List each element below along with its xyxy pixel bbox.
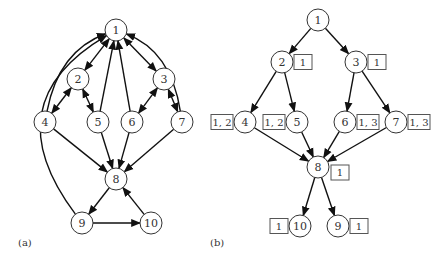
b-edge-2-5 bbox=[285, 73, 295, 112]
a-edge-1-2 bbox=[85, 39, 110, 71]
svg-text:1: 1 bbox=[113, 24, 120, 37]
b-edge-2-4 bbox=[251, 71, 276, 112]
a-edge-2-5 bbox=[83, 89, 94, 112]
b-node-6: 6 bbox=[334, 111, 356, 133]
a-edge-7-8 bbox=[124, 129, 173, 172]
b-node-7: 7 bbox=[385, 111, 407, 133]
graph-figure: 12345678910 1213141, 251, 261, 371, 3811… bbox=[0, 0, 445, 261]
a-edge-8-9 bbox=[89, 188, 110, 215]
a-edge-6-8 bbox=[119, 133, 129, 169]
a-node-2: 2 bbox=[67, 68, 89, 90]
b-node-3-label-box: 1 bbox=[368, 55, 386, 70]
a-node-3: 3 bbox=[153, 68, 175, 90]
svg-text:1: 1 bbox=[356, 221, 362, 232]
svg-text:10: 10 bbox=[144, 217, 158, 230]
b-node-2-label-box: 1 bbox=[294, 55, 312, 70]
b-node-3: 3 bbox=[345, 51, 367, 73]
a-edge-4-8 bbox=[54, 129, 108, 172]
b-edge-1-3 bbox=[325, 28, 348, 54]
a-edge-10-8 bbox=[123, 188, 144, 215]
b-node-9: 9 bbox=[327, 215, 349, 237]
svg-text:1, 3: 1, 3 bbox=[409, 117, 428, 128]
svg-text:5: 5 bbox=[95, 116, 102, 129]
svg-text:1: 1 bbox=[374, 57, 380, 68]
b-node-1: 1 bbox=[307, 9, 329, 31]
b-node-5-label-box: 1, 2 bbox=[263, 115, 285, 130]
b-node-9-label-box: 1 bbox=[350, 219, 368, 234]
b-node-10-label-box: 1 bbox=[270, 219, 288, 234]
svg-text:1, 3: 1, 3 bbox=[358, 117, 377, 128]
b-edge-3-7 bbox=[362, 71, 390, 113]
svg-text:1: 1 bbox=[315, 14, 322, 27]
b-node-4-label-box: 1, 2 bbox=[211, 115, 233, 130]
svg-text:6: 6 bbox=[342, 116, 349, 129]
b-edge-7-8 bbox=[328, 127, 387, 161]
svg-text:1: 1 bbox=[300, 57, 306, 68]
b-edge-8-10 bbox=[303, 178, 315, 216]
b-edge-6-8 bbox=[324, 131, 340, 157]
a-edge-1-3 bbox=[124, 38, 157, 71]
a-edge-3-6 bbox=[139, 88, 158, 113]
b-node-8: 8 bbox=[307, 156, 329, 178]
a-node-7: 7 bbox=[171, 111, 193, 133]
panel-a-caption: (a) bbox=[18, 237, 32, 248]
svg-text:6: 6 bbox=[129, 116, 136, 129]
a-node-4: 4 bbox=[34, 111, 56, 133]
svg-text:1: 1 bbox=[276, 221, 282, 232]
svg-text:9: 9 bbox=[79, 217, 86, 230]
svg-text:2: 2 bbox=[75, 73, 82, 86]
svg-text:5: 5 bbox=[294, 116, 301, 129]
panel-a-nodes: 12345678910 bbox=[34, 19, 193, 234]
b-node-6-label-box: 1, 3 bbox=[357, 115, 379, 130]
svg-text:8: 8 bbox=[315, 161, 322, 174]
a-node-9: 9 bbox=[71, 212, 93, 234]
svg-text:9: 9 bbox=[335, 220, 342, 233]
svg-text:2: 2 bbox=[279, 56, 286, 69]
a-edge-2-4 bbox=[52, 88, 72, 114]
svg-text:4: 4 bbox=[42, 116, 49, 129]
a-edge-5-1 bbox=[100, 41, 114, 111]
b-node-2: 2 bbox=[271, 51, 293, 73]
b-node-10: 10 bbox=[289, 215, 311, 237]
svg-text:1: 1 bbox=[337, 167, 343, 178]
svg-text:10: 10 bbox=[293, 220, 307, 233]
svg-text:7: 7 bbox=[179, 116, 186, 129]
b-edge-1-2 bbox=[289, 28, 311, 53]
svg-text:3: 3 bbox=[161, 73, 168, 86]
a-edge-6-1 bbox=[118, 41, 130, 111]
a-node-10: 10 bbox=[140, 212, 162, 234]
svg-text:1, 2: 1, 2 bbox=[212, 117, 231, 128]
svg-text:8: 8 bbox=[113, 173, 120, 186]
a-node-6: 6 bbox=[121, 111, 143, 133]
svg-text:1, 2: 1, 2 bbox=[264, 117, 283, 128]
svg-text:7: 7 bbox=[393, 116, 400, 129]
a-node-8: 8 bbox=[105, 168, 127, 190]
b-node-4: 4 bbox=[234, 111, 256, 133]
panel-b-nodes: 1213141, 251, 261, 371, 38110191 bbox=[211, 9, 430, 237]
panel-b-caption: (b) bbox=[210, 237, 224, 248]
b-edge-3-6 bbox=[347, 73, 354, 111]
svg-text:4: 4 bbox=[242, 116, 249, 129]
b-node-8-label-box: 1 bbox=[331, 165, 349, 180]
b-node-7-label-box: 1, 3 bbox=[408, 115, 430, 130]
b-edge-8-9 bbox=[322, 177, 335, 215]
b-node-5: 5 bbox=[286, 111, 308, 133]
a-edge-5-8 bbox=[101, 132, 112, 168]
svg-text:3: 3 bbox=[353, 56, 360, 69]
a-node-5: 5 bbox=[87, 111, 109, 133]
panel-a-edges bbox=[40, 34, 180, 223]
b-edge-5-8 bbox=[302, 132, 314, 157]
a-node-1: 1 bbox=[105, 19, 127, 41]
